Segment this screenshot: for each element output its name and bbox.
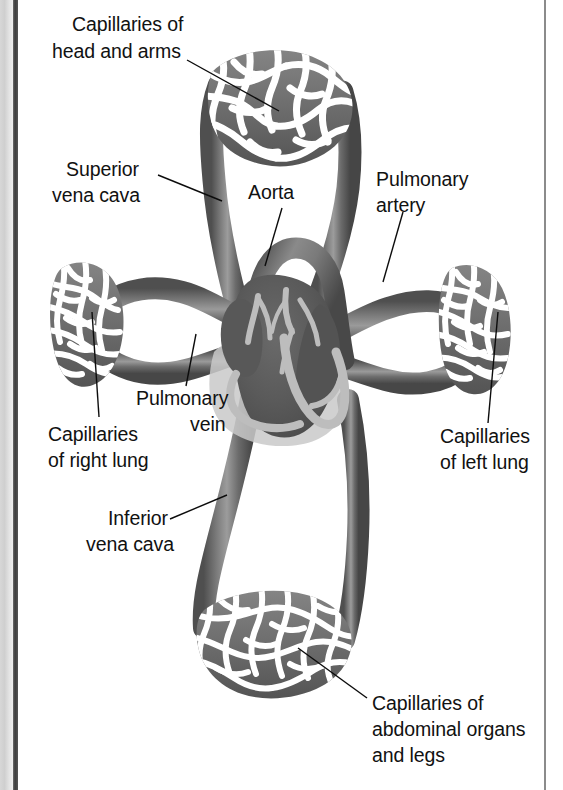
label-capillaries-head-and-arms: Capillaries of head and arms xyxy=(52,13,189,62)
label-capillaries-left-lung: Capillaries of left lung xyxy=(440,425,535,473)
capillary-bed-right-lung xyxy=(44,254,124,387)
label-capillaries-right-lung: Capillaries of right lung xyxy=(48,423,149,471)
circulatory-system-figure: Capillaries of head and arms Superior ve… xyxy=(0,0,563,790)
label-superior-vena-cava: Superior vena cava xyxy=(52,158,144,206)
label-pulmonary-artery: Pulmonary artery xyxy=(376,168,474,216)
label-aorta: Aorta xyxy=(248,181,294,203)
book-page: Capillaries of head and arms Superior ve… xyxy=(0,0,563,790)
vessel-descending-aorta xyxy=(344,400,359,640)
label-capillaries-abdominal-organs-and-legs: Capillaries of abdominal organs and legs xyxy=(372,692,531,766)
label-inferior-vena-cava: Inferior vena cava xyxy=(86,507,174,555)
leader-pulmonary-artery xyxy=(383,212,403,282)
